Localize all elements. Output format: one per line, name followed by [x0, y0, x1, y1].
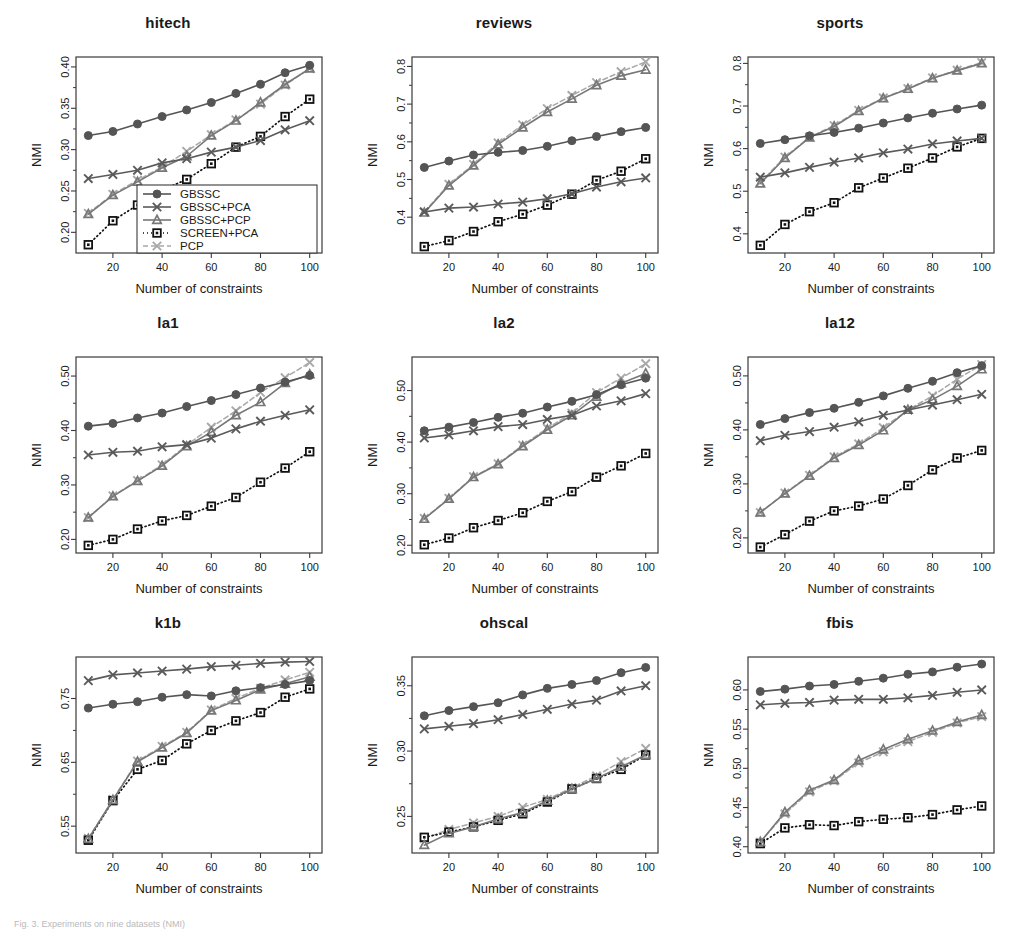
y-tick-label: 0.50 — [731, 365, 743, 386]
y-tick-label: 0.30 — [59, 474, 71, 495]
legend: GBSSCGBSSC+PCAGBSSC+PCPSCREEN+PCAPCP — [137, 185, 317, 253]
x-tick-label: 20 — [779, 261, 791, 273]
x-tick-label: 20 — [443, 861, 455, 873]
x-tick-label: 100 — [973, 861, 991, 873]
x-tick-label: 80 — [926, 861, 938, 873]
x-axis-label: Number of constraints — [135, 881, 263, 896]
series-gbssc-pca — [84, 406, 314, 460]
x-axis-label: Number of constraints — [135, 581, 263, 596]
chart-panel-fbis: fbis0.400.450.500.550.6020406080100Numbe… — [672, 600, 1008, 900]
chart-panel-la1: la10.200.300.400.5020406080100Number of … — [0, 300, 336, 600]
series-gbssc — [756, 660, 985, 695]
x-tick-label: 40 — [492, 861, 504, 873]
series-gbssc-pcp — [84, 370, 314, 521]
x-tick-label: 100 — [637, 261, 655, 273]
x-tick-label: 20 — [443, 261, 455, 273]
x-tick-label: 60 — [541, 561, 553, 573]
series-gbssc-pcp — [420, 65, 650, 216]
x-axis-label: Number of constraints — [471, 281, 599, 296]
figure-caption: Fig. 3. Experiments on nine datasets (NM… — [14, 919, 185, 929]
x-axis-label: Number of constraints — [807, 881, 935, 896]
y-tick-label: 0.40 — [59, 420, 71, 441]
y-tick-label: 0.6 — [395, 134, 407, 149]
series-gbssc-pca — [84, 657, 314, 685]
chart-panel-k1b: k1b0.550.650.7520406080100Number of cons… — [0, 600, 336, 900]
x-axis-label: Number of constraints — [471, 581, 599, 596]
y-tick-label: 0.30 — [395, 740, 407, 761]
series-pcp — [420, 744, 650, 843]
chart-svg: 0.200.250.300.350.4020406080100Number of… — [0, 0, 336, 300]
chart-svg: 0.250.300.3520406080100Number of constra… — [336, 600, 672, 900]
x-tick-label: 60 — [205, 861, 217, 873]
x-tick-label: 40 — [492, 261, 504, 273]
series-screen-pca — [85, 685, 314, 844]
x-tick-label: 100 — [301, 861, 319, 873]
series-gbssc-pcp — [420, 369, 650, 522]
chart-svg: 0.200.300.400.5020406080100Number of con… — [672, 300, 1008, 600]
x-tick-label: 100 — [301, 561, 319, 573]
chart-panel-hitech: hitech0.200.250.300.350.4020406080100Num… — [0, 0, 336, 300]
y-axis-label: NMI — [29, 443, 44, 467]
y-axis-label: NMI — [365, 143, 380, 167]
y-tick-label: 0.7 — [395, 96, 407, 111]
y-tick-label: 0.25 — [395, 806, 407, 827]
y-axis-label: NMI — [365, 443, 380, 467]
x-tick-label: 100 — [973, 261, 991, 273]
chart-panel-la2: la20.200.300.400.5020406080100Number of … — [336, 300, 672, 600]
figure-root: hitech0.200.250.300.350.4020406080100Num… — [0, 0, 1010, 931]
x-tick-label: 40 — [492, 561, 504, 573]
y-tick-label: 0.55 — [59, 815, 71, 836]
x-tick-label: 40 — [828, 261, 840, 273]
y-tick-label: 0.40 — [59, 56, 71, 77]
x-tick-label: 20 — [779, 561, 791, 573]
y-tick-label: 0.30 — [395, 483, 407, 504]
series-screen-pca — [757, 447, 986, 551]
chart-panel-sports: sports0.40.50.60.70.820406080100Number o… — [672, 0, 1008, 300]
y-tick-label: 0.40 — [731, 419, 743, 440]
x-axis-label: Number of constraints — [807, 281, 935, 296]
x-axis-label: Number of constraints — [135, 281, 263, 296]
series-pcp — [84, 668, 314, 842]
x-axis-label: Number of constraints — [471, 881, 599, 896]
legend-label: PCP — [180, 240, 204, 252]
series-gbssc-pca — [420, 389, 650, 442]
legend-label: GBSSC — [180, 188, 220, 200]
x-tick-label: 80 — [590, 261, 602, 273]
x-tick-label: 20 — [107, 261, 119, 273]
chart-svg: 0.40.50.60.70.820406080100Number of cons… — [336, 0, 672, 300]
x-tick-label: 40 — [828, 561, 840, 573]
series-pcp — [756, 58, 986, 186]
y-tick-label: 0.6 — [731, 141, 743, 156]
series-pcp — [420, 360, 650, 523]
series-gbssc-pcp — [756, 710, 986, 845]
x-tick-label: 60 — [877, 261, 889, 273]
x-tick-label: 80 — [590, 861, 602, 873]
legend-label: GBSSC+PCA — [180, 201, 251, 213]
x-tick-label: 60 — [877, 861, 889, 873]
y-tick-label: 0.4 — [395, 210, 407, 225]
series-gbssc — [84, 61, 313, 139]
y-tick-label: 0.65 — [59, 752, 71, 773]
series-gbssc-pcp — [756, 59, 986, 187]
series-gbssc-pca — [84, 116, 314, 182]
chart-panel-reviews: reviews0.40.50.60.70.820406080100Number … — [336, 0, 672, 300]
y-tick-label: 0.35 — [395, 675, 407, 696]
x-tick-label: 80 — [590, 561, 602, 573]
y-axis-label: NMI — [701, 143, 716, 167]
y-axis-label: NMI — [29, 743, 44, 767]
y-tick-label: 0.30 — [59, 139, 71, 160]
y-tick-label: 0.35 — [59, 98, 71, 119]
series-screen-pca — [421, 450, 650, 549]
series-gbssc — [420, 374, 649, 435]
chart-svg: 0.550.650.7520406080100Number of constra… — [0, 600, 336, 900]
y-tick-label: 0.20 — [59, 222, 71, 243]
legend-label: SCREEN+PCA — [180, 227, 259, 239]
y-tick-label: 0.60 — [731, 679, 743, 700]
x-tick-label: 60 — [541, 261, 553, 273]
y-tick-label: 0.20 — [395, 535, 407, 556]
x-tick-label: 60 — [541, 861, 553, 873]
series-gbssc-pcp — [756, 365, 986, 516]
y-tick-label: 0.75 — [59, 688, 71, 709]
x-tick-label: 20 — [107, 561, 119, 573]
series-gbssc-pca — [756, 134, 986, 181]
